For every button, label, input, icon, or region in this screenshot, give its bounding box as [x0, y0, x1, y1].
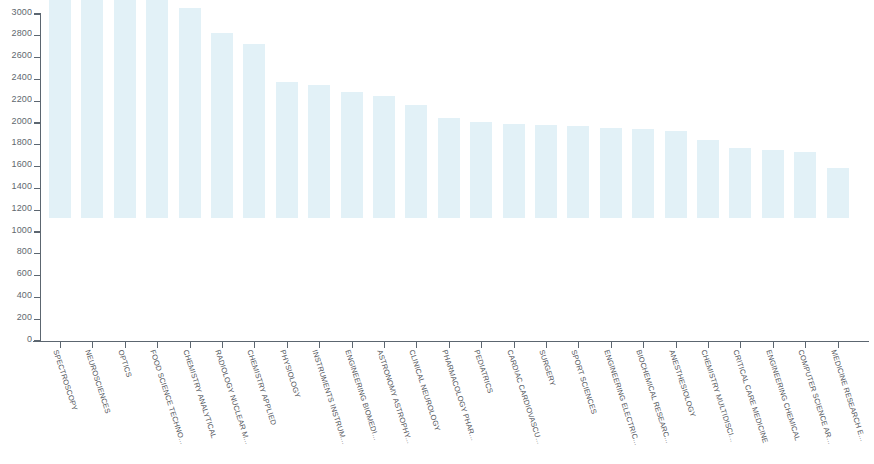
- bar-chart: 0200400600800100012001400160018002000220…: [0, 0, 874, 464]
- y-axis-tick-mark: [34, 166, 41, 167]
- x-axis-tick-mark: [319, 342, 320, 348]
- bar: [503, 124, 525, 218]
- x-axis-category-label: CHEMISTRY MULTIDISCI...: [699, 349, 736, 443]
- x-axis-tick-mark: [190, 342, 191, 348]
- y-axis-tick-label: 400: [17, 291, 32, 300]
- x-axis-tick-mark: [449, 342, 450, 348]
- x-axis-tick-mark: [416, 342, 417, 348]
- x-axis-tick-mark: [60, 342, 61, 348]
- x-axis-category-label: CLINICAL NEUROLOGY: [408, 349, 442, 432]
- x-axis-tick-mark: [481, 342, 482, 348]
- y-axis-tick-label: 1800: [12, 138, 32, 147]
- y-axis-tick-label: 0: [27, 335, 32, 344]
- y-axis-tick-mark: [34, 275, 41, 276]
- x-axis-tick-mark: [222, 342, 223, 348]
- y-axis-tick-mark: [34, 319, 41, 320]
- x-axis-tick-mark: [384, 342, 385, 348]
- y-axis-tick-mark: [34, 35, 41, 36]
- bar: [729, 148, 751, 218]
- bar: [114, 0, 136, 218]
- y-axis-tick-mark: [34, 297, 41, 298]
- y-axis-tick-mark: [34, 188, 41, 189]
- x-axis-category-label: FOOD SCIENCE TECHNO...: [149, 349, 187, 445]
- bar: [697, 140, 719, 218]
- y-axis-tick-mark: [34, 231, 41, 232]
- y-axis-line: [40, 14, 41, 342]
- y-axis-tick-mark: [34, 144, 41, 145]
- x-axis-category-label: NEUROSCIENCES: [84, 349, 112, 415]
- y-axis-tick-label: 1000: [12, 226, 32, 235]
- y-axis-tick-label: 2800: [12, 29, 32, 38]
- bar: [49, 0, 71, 218]
- bar: [794, 152, 816, 218]
- x-axis-tick-mark: [676, 342, 677, 348]
- x-axis-tick-mark: [611, 342, 612, 348]
- x-axis-category-label: RADIOLOGY NUCLEAR M...: [213, 349, 251, 445]
- x-axis-category-label: PHARMACOLOGY PHAR...: [440, 349, 477, 442]
- x-axis-category-label: PEDIATRICS: [473, 349, 495, 395]
- x-axis-category-label: ENGINEERING ELECTRIC...: [602, 349, 641, 447]
- x-axis-category-label: CARDIAC CARDIOVASCU...: [505, 349, 543, 445]
- bar: [146, 0, 168, 218]
- x-axis-category-label: ASTRONOMY ASTROPHY...: [375, 349, 413, 445]
- x-axis-category-label: ENGINEERING CHEMICAL: [764, 349, 801, 442]
- x-axis-tick-mark: [287, 342, 288, 348]
- y-axis-tick-label: 800: [17, 247, 32, 256]
- x-axis-category-label: ANESTHESIOLOGY: [667, 349, 696, 418]
- y-axis-tick-label: 1200: [12, 204, 32, 213]
- y-axis-tick-label: 2400: [12, 73, 32, 82]
- x-axis-tick-mark: [805, 342, 806, 348]
- x-axis-tick-mark: [643, 342, 644, 348]
- y-axis-tick-mark: [34, 253, 41, 254]
- bar: [827, 168, 849, 218]
- y-axis-tick-label: 600: [17, 269, 32, 278]
- y-axis-tick-label: 1400: [12, 182, 32, 191]
- x-axis-category-label: BIOCHEMICAL RESEARC...: [635, 349, 673, 445]
- x-axis-tick-mark: [838, 342, 839, 348]
- x-axis-tick-mark: [92, 342, 93, 348]
- x-axis-tick-mark: [125, 342, 126, 348]
- x-axis-category-label: OPTICS: [116, 349, 132, 379]
- x-axis-category-label: PHYSIOLOGY: [278, 349, 301, 399]
- bar: [762, 150, 784, 218]
- x-axis-tick-mark: [773, 342, 774, 348]
- x-axis-tick-mark: [157, 342, 158, 348]
- x-axis-category-label: CRITICAL CARE MEDICINE: [732, 349, 770, 444]
- bar: [243, 44, 265, 218]
- y-axis-tick-mark: [34, 13, 41, 14]
- bar: [341, 92, 363, 218]
- y-axis-tick-mark: [34, 79, 41, 80]
- bar: [600, 128, 622, 218]
- x-axis-line: [33, 341, 869, 342]
- x-axis-category-label: MEDICINE RESEARCH E...: [829, 349, 866, 442]
- bar: [438, 118, 460, 218]
- plot-area: [0, 0, 874, 341]
- x-axis-category-label: INSTRUMENTS INSTRUM...: [311, 349, 349, 445]
- x-axis-tick-mark: [578, 342, 579, 348]
- x-axis-category-label: SPECTROSCOPY: [51, 349, 78, 412]
- x-axis-category-label: CHEMISTRY APPLIED: [246, 349, 278, 426]
- bar: [567, 126, 589, 218]
- x-axis-tick-mark: [740, 342, 741, 348]
- x-axis-tick-mark: [254, 342, 255, 348]
- y-axis-tick-label: 1600: [12, 160, 32, 169]
- y-axis-tick-mark: [34, 122, 41, 123]
- bar: [81, 0, 103, 218]
- bar: [665, 131, 687, 218]
- x-axis-tick-mark: [514, 342, 515, 348]
- y-axis-tick-mark: [34, 210, 41, 211]
- x-axis-tick-mark: [546, 342, 547, 348]
- x-axis-category-label: CHEMISTRY ANALYTICAL: [181, 349, 217, 439]
- bar: [308, 85, 330, 218]
- y-axis-tick-mark: [34, 57, 41, 58]
- bar: [405, 105, 427, 218]
- bar: [535, 125, 557, 218]
- bar: [373, 96, 395, 218]
- y-axis-tick-label: 2200: [12, 95, 32, 104]
- bar: [632, 129, 654, 218]
- y-axis-tick-mark: [34, 101, 41, 102]
- bar: [470, 122, 492, 218]
- bar: [211, 33, 233, 218]
- bar: [179, 8, 201, 218]
- y-axis-tick-label: 2000: [12, 117, 32, 126]
